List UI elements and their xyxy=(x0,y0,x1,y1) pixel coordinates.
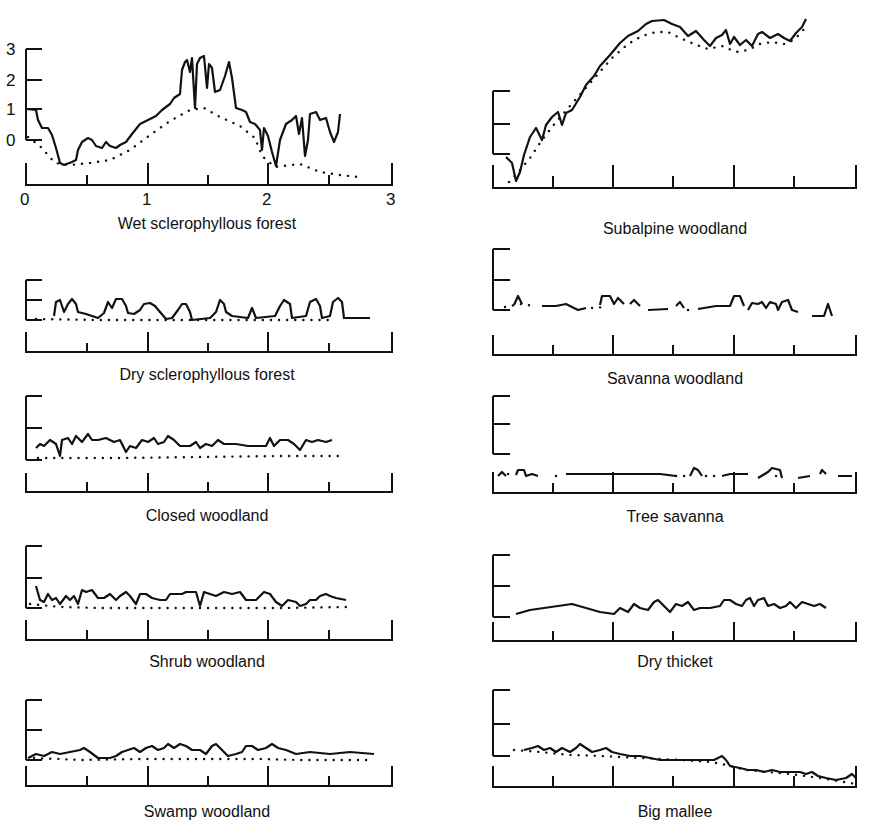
profile-line xyxy=(54,298,370,320)
profile-line xyxy=(36,434,332,456)
x-tick-label: 0 xyxy=(20,190,29,209)
panel-tree-savanna: Tree savanna xyxy=(493,396,856,525)
y-axis xyxy=(26,49,42,140)
y-axis xyxy=(493,690,510,756)
panel-closed-woodland: Closed woodland xyxy=(26,396,392,524)
panel-big-mallee: Big mallee xyxy=(493,690,856,820)
y-axis xyxy=(493,555,510,617)
x-tick-label: 3 xyxy=(386,190,395,209)
y-axis xyxy=(26,396,42,460)
panel-savanna-woodland: Savanna woodland xyxy=(493,249,856,387)
y-axis xyxy=(26,700,42,760)
panel-dry-thicket: Dry thicket xyxy=(493,555,856,670)
y-tick-label: 2 xyxy=(6,71,15,90)
x-axis xyxy=(493,335,856,355)
profile-line xyxy=(28,744,374,758)
x-tick-label: 1 xyxy=(142,190,151,209)
profile-line xyxy=(514,296,832,316)
panel-title: Big mallee xyxy=(638,803,713,820)
profile-line xyxy=(36,586,346,606)
x-axis xyxy=(26,473,392,492)
y-axis xyxy=(493,396,510,454)
envelope-line xyxy=(36,319,330,320)
panel-title: Subalpine woodland xyxy=(603,220,747,237)
panel-subalpine-woodland: Subalpine woodland xyxy=(493,19,856,237)
panel-title: Closed woodland xyxy=(146,507,269,524)
x-axis xyxy=(26,620,392,640)
panel-title: Swamp woodland xyxy=(144,803,270,820)
envelope-line xyxy=(38,456,340,458)
panel-title: Shrub woodland xyxy=(149,653,265,670)
y-tick-label: 1 xyxy=(6,100,15,119)
panel-dry-sclerophyllous-forest: Dry sclerophyllous forest xyxy=(26,280,392,383)
panel-title: Savanna woodland xyxy=(607,370,743,387)
y-axis xyxy=(493,249,510,310)
figure-canvas: 3 2 1 0 0 1 2 3 Wet sclerophyllous fores… xyxy=(0,0,870,834)
profile-line xyxy=(516,598,826,614)
x-axis xyxy=(493,622,856,641)
panel-title: Wet sclerophyllous forest xyxy=(118,215,297,232)
x-axis xyxy=(26,332,392,352)
profile-line xyxy=(524,744,856,780)
panel-shrub-woodland: Shrub woodland xyxy=(26,546,392,670)
y-tick-label: 3 xyxy=(6,40,15,59)
profile-line xyxy=(27,56,340,166)
y-axis xyxy=(493,91,510,154)
x-axis xyxy=(493,766,856,787)
x-tick-label: 2 xyxy=(262,190,271,209)
panel-wet-sclerophyllous-forest: 3 2 1 0 0 1 2 3 Wet sclerophyllous fores… xyxy=(6,40,395,232)
x-axis xyxy=(26,766,392,786)
envelope-line xyxy=(509,27,806,182)
panel-swamp-woodland: Swamp woodland xyxy=(26,700,392,820)
envelope-line xyxy=(514,750,856,784)
panel-title: Dry thicket xyxy=(637,653,713,670)
x-axis xyxy=(26,163,392,185)
x-axis xyxy=(493,165,856,188)
y-tick-label: 0 xyxy=(6,131,15,150)
y-axis xyxy=(26,280,42,320)
panel-title: Tree savanna xyxy=(626,508,723,525)
panel-title: Dry sclerophyllous forest xyxy=(119,366,295,383)
envelope-line xyxy=(34,758,374,760)
